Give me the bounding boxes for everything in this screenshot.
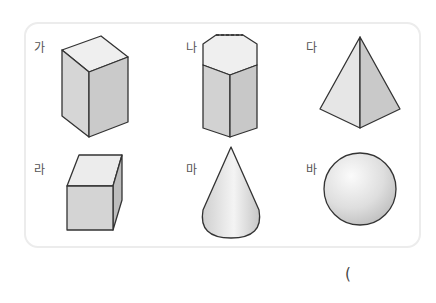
hexagonal-prism-shape: [203, 35, 257, 137]
shape-label-ma: 마: [186, 164, 197, 176]
shape-label-ba: 바: [306, 164, 317, 176]
cone-shape: [202, 147, 259, 238]
shape-label-da: 다: [306, 42, 317, 54]
cube-shape: [67, 155, 122, 230]
shapes-figure: [0, 0, 436, 303]
sphere-shape: [324, 153, 396, 225]
shape-label-ga: 가: [34, 42, 45, 54]
shape-label-ra: 라: [34, 164, 45, 176]
shape-label-na: 나: [186, 42, 197, 54]
triangular-pyramid-shape: [320, 37, 400, 128]
square-prism-shape: [62, 36, 128, 137]
answer-blank-open-paren: (: [345, 265, 351, 283]
